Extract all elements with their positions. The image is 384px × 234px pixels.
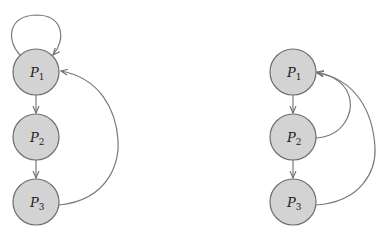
node-label: P [286, 65, 296, 80]
node-subscript: 1 [296, 72, 302, 82]
edge-p3-to-p1 [316, 72, 375, 205]
node-p1-right: P1 [270, 49, 316, 95]
node-subscript: 3 [39, 202, 45, 212]
left-graph: P1 P2 P3 [12, 15, 119, 225]
node-label: P [29, 65, 39, 80]
diagram-canvas: P1 P2 P3 P1 P2 P3 [0, 0, 384, 234]
node-p1-left: P1 [13, 49, 59, 95]
edge-p3-to-p1 [59, 71, 118, 205]
node-p2-left: P2 [13, 114, 59, 160]
node-subscript: 2 [296, 137, 302, 147]
edge-p2-to-p1 [316, 73, 350, 138]
node-label: P [286, 195, 296, 210]
node-p2-right: P2 [270, 114, 316, 160]
node-label: P [29, 130, 39, 145]
node-subscript: 3 [296, 202, 302, 212]
right-graph: P1 P2 P3 [270, 49, 375, 225]
node-p3-left: P3 [13, 179, 59, 225]
node-label: P [286, 130, 296, 145]
node-label: P [29, 195, 39, 210]
node-p3-right: P3 [270, 179, 316, 225]
node-subscript: 1 [39, 72, 45, 82]
node-subscript: 2 [39, 137, 45, 147]
